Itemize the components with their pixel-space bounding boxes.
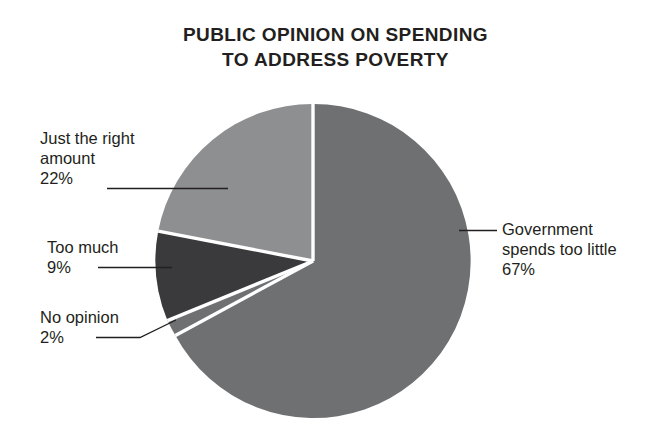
callout-right-amount-line-1: Just the right [40,128,134,148]
callout-no-opinion: No opinion 2% [40,307,119,347]
callout-right-amount-value: 22% [40,168,134,188]
callout-just-the-right-amount: Just the right amount 22% [40,128,134,188]
callout-too-much: Too much 9% [47,237,119,277]
pie-chart-graphic [0,0,671,431]
callout-too-much-line-1: Too much [47,237,119,257]
callout-right-amount-line-2: amount [40,148,134,168]
callout-no-opinion-value: 2% [40,327,119,347]
callout-government-spends-too-little: Government spends too little 67% [502,219,617,279]
callout-government-value: 67% [502,259,617,279]
callout-too-much-value: 9% [47,257,119,277]
callout-government-line-1: Government [502,219,617,239]
pie-chart-page: PUBLIC OPINION ON SPENDING TO ADDRESS PO… [0,0,671,431]
callout-government-line-2: spends too little [502,239,617,259]
callout-no-opinion-line-1: No opinion [40,307,119,327]
